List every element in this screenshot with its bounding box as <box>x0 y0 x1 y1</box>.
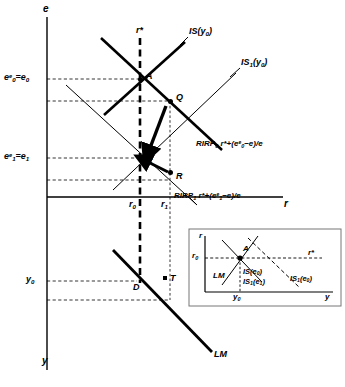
curve-label-lm: LM <box>214 350 227 359</box>
inset-rstar-label: r* <box>308 249 314 257</box>
point-marker-a <box>138 77 143 82</box>
rstar-label: r* <box>136 26 143 35</box>
point-label-q: Q <box>176 93 183 102</box>
tick-label-e0: ee0=e0 <box>4 73 29 83</box>
inset-panel <box>189 229 341 306</box>
inset-curve-label-lm: LM <box>213 272 225 280</box>
inset-curve-label-is1-e1: IS1(e1) <box>243 278 265 287</box>
point-label-d: D <box>133 283 140 292</box>
curve-label-is1-y0: IS1(y0) <box>241 58 267 68</box>
tick-label-y0: y0 <box>26 275 34 285</box>
axis-label-r: r <box>284 199 288 209</box>
inset-axis-label-y: y <box>325 293 329 301</box>
tick-e1-text: ee1=e1 <box>4 151 29 161</box>
point-label-c: C <box>146 157 153 166</box>
point-label-a: A <box>146 72 153 81</box>
tick-label-e1: ee1=e1 <box>4 152 29 162</box>
point-marker-q <box>168 99 173 104</box>
figure-canvas: e y r ee0=e0 ee1=e1 r0 r1 y0 r* IS(y0) I… <box>0 0 345 387</box>
axis-label-y: y <box>42 356 48 366</box>
point-marker-r <box>168 170 173 175</box>
diagram-svg <box>0 0 345 387</box>
tick-label-r0: r0 <box>129 200 136 210</box>
curve-label-rirp0: RIRP0 r*+(ee0−e)/e <box>196 140 263 149</box>
inset-curve-label-is-e0: IS(e0) <box>243 268 262 277</box>
inset-axis-label-r: r <box>199 232 202 240</box>
inset-tick-r0: r0 <box>192 252 198 261</box>
point-label-r: R <box>176 172 183 181</box>
inset-curve-label-is1-e0: IS1(e0) <box>290 275 312 284</box>
curve-rirp1 <box>66 85 197 205</box>
tick-e0-text: ee0=e0 <box>4 72 29 82</box>
axis-label-e: e <box>43 4 49 14</box>
point-marker-t <box>163 276 167 280</box>
point-marker-c <box>138 156 143 161</box>
tick-label-r1: r1 <box>161 200 168 210</box>
curve-label-rirp1: RIRP1 r*+(ee1−e)/e <box>174 192 241 201</box>
inset-point-label-a: A <box>243 245 249 253</box>
point-label-t: T <box>170 274 176 283</box>
curve-label-is-y0: IS(y0) <box>189 27 212 37</box>
inset-tick-y0: y0 <box>233 293 240 302</box>
